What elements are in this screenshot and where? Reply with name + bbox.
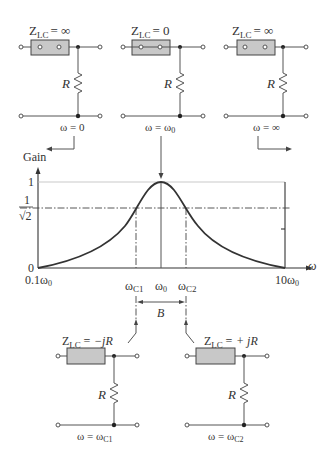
freq-label: ω = ωC1 — [77, 430, 113, 444]
x-tick-w0: ω0 — [155, 279, 167, 294]
freq-label: ω = 0 — [60, 121, 85, 133]
svg-text:R: R — [227, 387, 236, 402]
circuit-omega-resonant: ZLC= 0 R ω = ω0 — [121, 23, 205, 179]
y-tick-half-den: √2 — [19, 209, 32, 223]
y-tick-1: 1 — [28, 175, 34, 189]
circuit-omega-zero: ZLC= ∞ R ω = 0 — [19, 23, 102, 152]
z-label: ZLC= 0 — [131, 23, 170, 40]
x-tick-min: 0.1ω0 — [25, 273, 52, 288]
lc-block — [31, 40, 69, 55]
freq-label: ω = ωC2 — [208, 430, 244, 444]
x-tick-wc2: ωC2 — [178, 279, 196, 294]
svg-text:R: R — [97, 387, 106, 402]
freq-label: ω = ∞ — [253, 121, 280, 133]
resistor-icon — [176, 73, 184, 93]
arrow-left-icon — [50, 136, 74, 149]
z-label: ZLC= ∞ — [232, 23, 273, 40]
circuit-omega-infinity: ZLC= ∞ R ω = ∞ — [224, 23, 308, 152]
capacitive-block — [67, 348, 105, 364]
y-tick-half-num: 1 — [24, 193, 30, 207]
circuit-omega-c2: ZLC= + jR R ω = ωC2 — [185, 334, 269, 444]
open-terminal — [57, 45, 61, 49]
resistor-label: R — [61, 76, 70, 91]
resistor-icon — [279, 73, 287, 93]
band-pass-diagram: ZLC= ∞ R ω = 0 ZLC= 0 R — [0, 0, 330, 465]
inductive-block — [196, 348, 235, 364]
resistor-icon — [110, 383, 118, 403]
svg-text:R: R — [266, 76, 275, 91]
resistor-icon — [240, 383, 248, 403]
bandwidth-label: B — [157, 306, 165, 320]
bandwidth-marker: B — [128, 296, 194, 343]
gain-chart: Gain 1 1 √2 0 ω 0.1ω0 10ω0 ωC1 ω0 ωC2 — [19, 150, 316, 294]
arrow-right-icon — [258, 136, 287, 149]
circuit-omega-c1: ZLC= −jR R ω = ωC1 — [56, 334, 139, 444]
x-tick-max: 10ω0 — [275, 273, 299, 288]
resistor-icon — [74, 73, 82, 93]
svg-text:R: R — [163, 76, 172, 91]
x-tick-wc1: ωC1 — [125, 279, 143, 294]
freq-label: ω = ω0 — [145, 121, 175, 135]
x-axis-title: ω — [308, 259, 316, 273]
y-axis-title: Gain — [23, 150, 46, 164]
z-label: ZLC= ∞ — [29, 23, 70, 40]
open-terminal — [38, 45, 42, 49]
